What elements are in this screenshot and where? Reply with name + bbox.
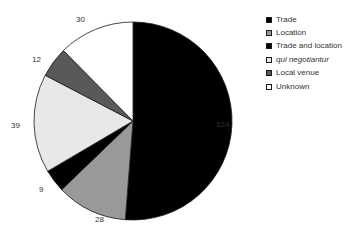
pie-chart: 124289391230 TradeLocationTrade and loca… — [0, 0, 356, 229]
legend-swatch-icon — [266, 43, 272, 49]
legend-item-label: Trade and location — [276, 42, 342, 50]
legend-item-label: Local venue — [276, 69, 319, 77]
chart-legend: TradeLocationTrade and locationqui negot… — [266, 13, 356, 93]
pie-slice-value-label: 30 — [76, 16, 85, 24]
legend-item[interactable]: Trade — [266, 13, 356, 26]
pie-slice-value-label: 9 — [39, 186, 43, 194]
legend-swatch-icon — [266, 70, 272, 76]
legend-item[interactable]: Unknown — [266, 80, 356, 93]
pie-slice-value-label: 28 — [95, 216, 104, 224]
pie-slice-value-label: 124 — [216, 121, 229, 129]
legend-item[interactable]: qui negotiantur — [266, 53, 356, 66]
pie-plot-area: 124289391230 — [0, 0, 236, 229]
pie-slice-value-label: 39 — [11, 122, 20, 130]
legend-swatch-icon — [266, 30, 272, 36]
pie-svg — [0, 0, 236, 229]
legend-item[interactable]: Trade and location — [266, 40, 356, 53]
legend-item-label: qui negotiantur — [276, 56, 329, 64]
legend-swatch-icon — [266, 57, 272, 63]
legend-item[interactable]: Local venue — [266, 67, 356, 80]
legend-item-label: Location — [276, 29, 306, 37]
legend-swatch-icon — [266, 84, 272, 90]
legend-item[interactable]: Location — [266, 26, 356, 39]
pie-slice-value-label: 12 — [32, 56, 41, 64]
legend-swatch-icon — [266, 17, 272, 23]
legend-item-label: Trade — [276, 16, 297, 24]
legend-item-label: Unknown — [276, 83, 309, 91]
